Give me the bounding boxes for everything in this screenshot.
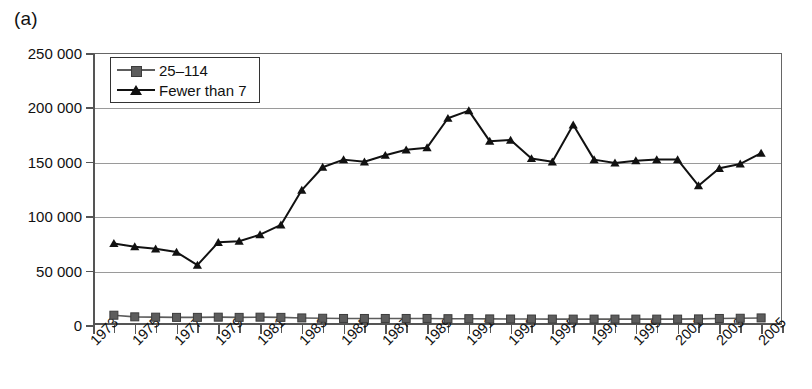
y-tick-label: 250 000 [2,45,82,62]
y-tick-mark [86,162,93,164]
legend-entry-0: 25–114 [117,59,208,81]
y-tick-label: 50 000 [2,262,82,279]
y-tick-mark [86,271,93,273]
gridline [95,108,781,109]
legend-entry-1: Fewer than 7 [117,79,247,101]
legend-label-0: 25–114 [159,62,208,79]
gridline [95,272,781,273]
gridline [95,163,781,164]
legend-label-1: Fewer than 7 [159,82,247,99]
x-axis-labels: 1973197519771979198119831985198719891991… [0,325,812,389]
y-tick-mark [86,216,93,218]
legend: 25–114 Fewer than 7 [110,57,260,103]
figure-panel-a: (a) 050 000100 000150 000200 000250 000 … [0,0,812,389]
y-tick-label: 200 000 [2,99,82,116]
y-tick-mark [86,53,93,55]
y-tick-mark [86,107,93,109]
legend-swatch-square-icon [117,63,155,77]
y-tick-label: 150 000 [2,153,82,170]
y-tick-label: 100 000 [2,208,82,225]
gridline [95,217,781,218]
legend-swatch-triangle-icon [117,83,155,97]
